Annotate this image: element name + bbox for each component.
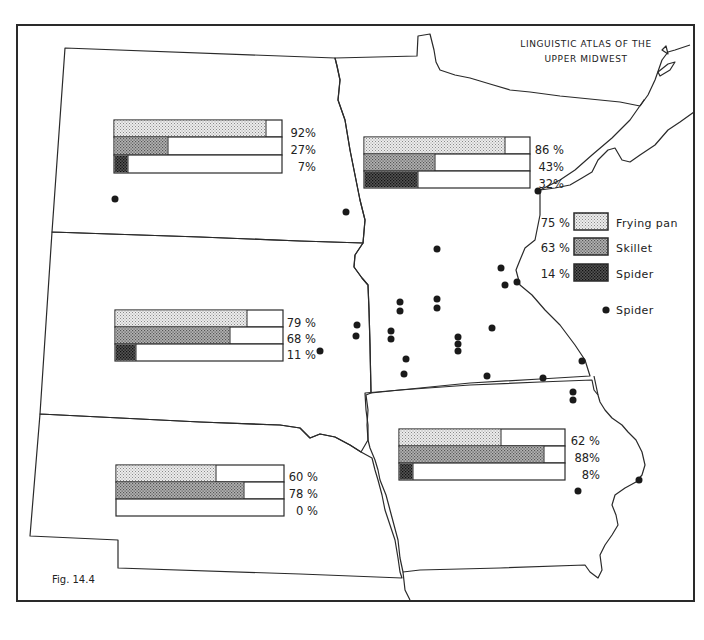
lake-superior-north-shore bbox=[640, 45, 690, 106]
bar-skillet bbox=[400, 447, 544, 463]
legend-swatch-skillet bbox=[574, 238, 608, 255]
bar-spider bbox=[365, 172, 418, 188]
pct-frying-pan: 60 % bbox=[289, 470, 318, 484]
bar-group-iowa: 62 % 88% 8% bbox=[399, 429, 600, 482]
pct-skillet: 43% bbox=[538, 160, 564, 174]
bar-spider bbox=[400, 464, 413, 480]
pct-skillet: 88% bbox=[574, 451, 600, 465]
bar-group-nebraska: 60 % 78 % 0 % bbox=[116, 465, 318, 518]
pct-skillet: 68 % bbox=[287, 332, 316, 346]
bar-spider bbox=[116, 499, 284, 516]
bar-skillet bbox=[115, 138, 168, 155]
bar-group-south-dakota: 79 % 68 % 11 % bbox=[115, 310, 316, 362]
bar-skillet bbox=[365, 155, 435, 171]
legend-label-skillet: Skillet bbox=[616, 242, 653, 255]
bar-skillet bbox=[117, 483, 244, 499]
figure-label: Fig. 14.4 bbox=[52, 574, 95, 585]
border-missouri-partial bbox=[403, 572, 410, 600]
pct-frying-pan: 62 % bbox=[571, 434, 600, 448]
pct-frying-pan: 79 % bbox=[287, 316, 316, 330]
legend-dot-label: Spider bbox=[616, 304, 654, 317]
bar-group-north-dakota: 92% 27% 7% bbox=[114, 120, 316, 174]
island-small bbox=[662, 46, 668, 54]
bar-skillet bbox=[116, 328, 230, 344]
legend-dot-icon bbox=[602, 306, 609, 313]
bar-frying-pan bbox=[365, 138, 505, 154]
pct-frying-pan: 86 % bbox=[535, 143, 564, 157]
bar-spider bbox=[115, 156, 128, 173]
legend-swatch-spider bbox=[574, 264, 608, 281]
bar-group-minnesota: 86 % 43% 32% bbox=[364, 137, 564, 191]
pct-spider: 8% bbox=[582, 468, 600, 482]
pct-skillet: 78 % bbox=[289, 487, 318, 501]
pct-spider: 0 % bbox=[296, 504, 318, 518]
legend-pct-spider: 14 % bbox=[541, 267, 570, 281]
pct-spider: 11 % bbox=[287, 348, 316, 362]
linguistic-atlas-map: LINGUISTIC ATLAS OF THE UPPER MIDWEST 92… bbox=[0, 0, 704, 640]
pct-skillet: 27% bbox=[290, 143, 316, 157]
legend-label-spider: Spider bbox=[616, 268, 654, 281]
legend-label-frying-pan: Frying pan bbox=[616, 217, 678, 230]
bar-frying-pan bbox=[117, 466, 216, 482]
legend-pct-frying-pan: 75 % bbox=[541, 216, 570, 230]
pct-frying-pan: 92% bbox=[290, 126, 316, 140]
pct-spider: 32% bbox=[538, 177, 564, 191]
bar-frying-pan bbox=[115, 121, 266, 137]
bar-spider bbox=[116, 345, 136, 361]
bar-frying-pan bbox=[400, 430, 501, 446]
legend: 75 % Frying pan 63 % Skillet 14 % Spider… bbox=[541, 213, 678, 317]
legend-swatch-frying-pan bbox=[574, 213, 608, 230]
legend-pct-skillet: 63 % bbox=[541, 241, 570, 255]
map-title-line1: LINGUISTIC ATLAS OF THE bbox=[520, 39, 651, 49]
pct-spider: 7% bbox=[298, 160, 316, 174]
bar-frying-pan bbox=[116, 311, 247, 327]
map-title-line2: UPPER MIDWEST bbox=[544, 54, 627, 64]
